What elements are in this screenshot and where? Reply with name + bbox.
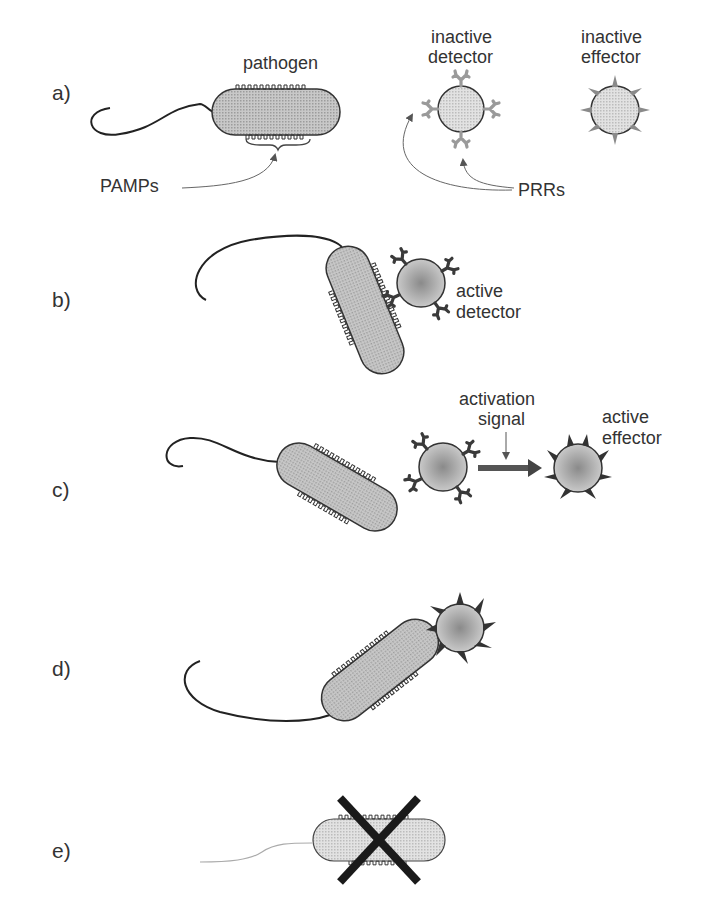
- prrs-arrow-bottom: [463, 160, 514, 188]
- inactive-detector-label-line1: inactive: [431, 27, 492, 47]
- panel-label-e: e): [52, 839, 71, 862]
- pathogen-cell: [310, 607, 450, 733]
- flagellum: [196, 236, 342, 300]
- pathogen-label: pathogen: [243, 53, 318, 73]
- panel-label-a: a): [52, 81, 71, 104]
- panel-d: [185, 592, 496, 733]
- flagellum-faded: [200, 843, 312, 862]
- panel-label-d: d): [52, 657, 71, 680]
- flagellum: [185, 661, 330, 721]
- flagellum: [91, 104, 214, 135]
- panel-label-c: c): [52, 478, 70, 501]
- active-detector-label-line1: active: [456, 281, 503, 301]
- inactive-detector-label-line2: detector: [428, 47, 493, 67]
- active-detector: [404, 432, 480, 504]
- pamps-arrow: [182, 155, 275, 188]
- panel-e: [200, 798, 445, 882]
- inactive-detector: [423, 71, 499, 147]
- panel-a: pathogen PAMPs inactive detector PRRs: [91, 27, 650, 200]
- active-effector-label-line1: active: [602, 407, 649, 427]
- activation-arrow: [478, 459, 542, 477]
- flagellum: [167, 438, 280, 466]
- pamps-label: PAMPs: [100, 176, 159, 196]
- inactive-effector-label-line2: effector: [581, 47, 641, 67]
- inactive-effector-label-line1: inactive: [581, 27, 642, 47]
- inactive-effector: [580, 75, 650, 145]
- pamps-brace: [246, 139, 310, 150]
- active-detector-label-line2: detector: [456, 302, 521, 322]
- immune-response-diagram: a) b) c) d) e) pathogen PAMPs inactive d…: [0, 0, 704, 915]
- active-effector-label-line2: effector: [602, 428, 662, 448]
- pathogen-cell: [212, 85, 340, 139]
- activation-signal-label-line1: activation: [459, 389, 535, 409]
- panel-b: active detector: [196, 236, 521, 382]
- panel-c: activation signal active effector: [167, 389, 662, 543]
- panel-label-b: b): [52, 288, 71, 311]
- activation-signal-label-line2: signal: [478, 409, 525, 429]
- prrs-label: PRRs: [518, 180, 565, 200]
- pathogen-cell: [266, 431, 407, 544]
